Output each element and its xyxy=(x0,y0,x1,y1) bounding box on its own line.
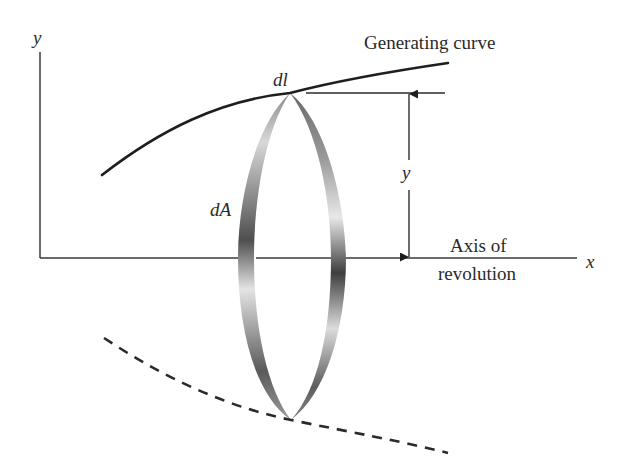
ring-band-right xyxy=(290,93,346,420)
y-dimension-label: y xyxy=(400,162,411,183)
dl-label: dl xyxy=(273,69,288,90)
dA-label: dA xyxy=(210,199,232,220)
x-axis-label: x xyxy=(585,251,595,272)
ring-band-left xyxy=(238,93,291,420)
generating-curve-label: Generating curve xyxy=(364,32,495,53)
surface-of-revolution-diagram: y x Generating curve dl dA y Axis of rev… xyxy=(0,0,621,469)
axis-of-revolution-label-line2: revolution xyxy=(438,263,517,284)
y-axis-label: y xyxy=(31,27,42,48)
axis-of-revolution-label-line1: Axis of xyxy=(450,235,507,256)
